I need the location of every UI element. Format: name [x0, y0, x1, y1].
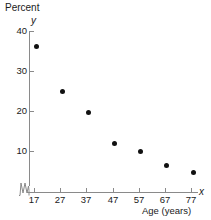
- x-tick-label: 67: [153, 195, 177, 205]
- x-axis-line: [27, 192, 198, 193]
- x-tick-mark: [139, 188, 140, 192]
- y-axis-symbol: y: [31, 16, 36, 26]
- x-tick-label: 57: [127, 195, 151, 205]
- y-tick-label-container: 10: [0, 146, 27, 156]
- scatter-plot-figure: Percent y 40 30 20 10 17 27 37 47 57 67 …: [0, 0, 211, 220]
- y-tick-mark: [30, 151, 34, 152]
- x-tick-label: 17: [22, 195, 46, 205]
- data-point: [112, 141, 117, 146]
- data-point: [191, 170, 196, 175]
- data-point: [164, 163, 169, 168]
- x-tick-label: 37: [74, 195, 98, 205]
- y-tick-mark: [30, 111, 34, 112]
- y-tick-label-container: 40: [0, 26, 27, 36]
- data-point: [86, 110, 91, 115]
- x-tick-mark: [165, 188, 166, 192]
- y-tick-label-container: 30: [0, 66, 27, 76]
- x-tick-mark: [86, 188, 87, 192]
- y-tick-label-container: 20: [0, 106, 27, 116]
- y-tick-label: 20: [1, 106, 27, 116]
- data-point: [60, 89, 65, 94]
- y-tick-mark: [30, 71, 34, 72]
- x-axis-symbol: x: [199, 187, 204, 197]
- x-tick-mark: [191, 188, 192, 192]
- y-tick-mark: [30, 31, 34, 32]
- y-tick-label: 10: [1, 146, 27, 156]
- x-tick-label: 27: [48, 195, 72, 205]
- x-axis-title: Age (years): [142, 206, 191, 216]
- data-point: [34, 44, 39, 49]
- y-tick-label: 30: [1, 66, 27, 76]
- x-tick-mark: [34, 188, 35, 192]
- y-axis-title: Percent: [5, 3, 39, 13]
- x-tick-mark: [113, 188, 114, 192]
- data-point: [138, 149, 143, 154]
- x-tick-mark: [60, 188, 61, 192]
- y-tick-label: 40: [1, 26, 27, 36]
- x-tick-label: 47: [101, 195, 125, 205]
- y-axis-line: [29, 31, 30, 183]
